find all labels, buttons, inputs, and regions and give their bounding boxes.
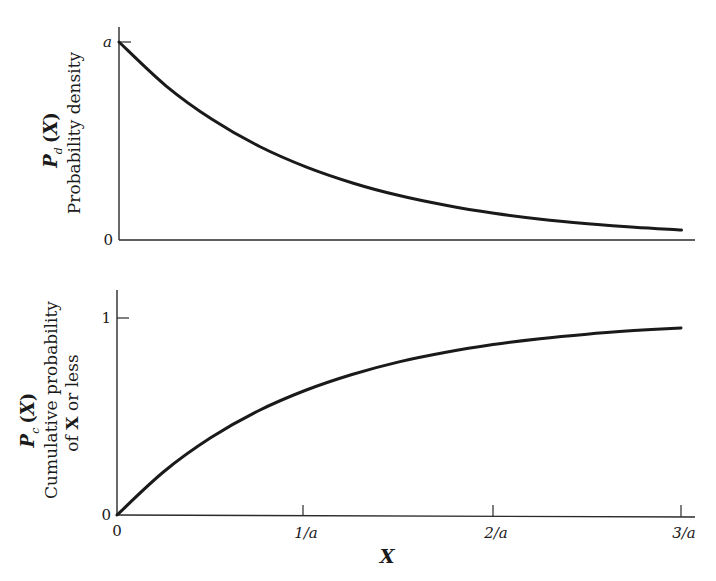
density-y-label: Pd(X) Probability density bbox=[40, 51, 84, 214]
cumulative-paren-open: ( bbox=[17, 415, 38, 424]
cumulative-y-label-line2: Cumulative probability bbox=[41, 301, 61, 499]
cumulative-label-x: X bbox=[62, 416, 82, 430]
density-paren-open: ( bbox=[40, 135, 61, 144]
density-y-label-line1: Pd(X) bbox=[40, 112, 65, 169]
cumulative-paren-close: ) bbox=[17, 393, 38, 402]
cumulative-symbol: P bbox=[17, 433, 38, 448]
cumulative-curve bbox=[117, 328, 681, 515]
density-y-tick-label-a: a bbox=[103, 33, 112, 51]
cumulative-label-or-less: or less bbox=[62, 354, 82, 416]
cumulative-y-label: Pc(X) Cumulative probability of X or les… bbox=[17, 301, 82, 499]
density-panel: a 0 Pd(X) Probability density bbox=[40, 27, 695, 249]
x-tick-label-0: 0 bbox=[112, 522, 122, 540]
cumulative-y-label-line1: Pc(X) bbox=[17, 393, 42, 449]
cumulative-label-of: of bbox=[62, 430, 82, 452]
density-arg: X bbox=[40, 120, 61, 136]
density-symbol: P bbox=[40, 154, 61, 169]
figure: a 0 Pd(X) Probability density 1 0 0 bbox=[0, 0, 716, 581]
chart-svg: a 0 Pd(X) Probability density 1 0 0 bbox=[0, 0, 716, 581]
x-tick-label-2-over-a: 2/a bbox=[483, 524, 508, 542]
density-y-tick-label-0: 0 bbox=[103, 231, 113, 249]
cumulative-y-label-line3: of X or less bbox=[62, 354, 82, 451]
cumulative-y-tick-label-1: 1 bbox=[101, 309, 111, 327]
cumulative-x-axis bbox=[117, 515, 695, 517]
density-y-label-line2: Probability density bbox=[64, 51, 84, 214]
x-axis-label: X bbox=[379, 545, 396, 567]
density-curve bbox=[119, 42, 682, 230]
cumulative-panel: 1 0 0 1/a 2/a 3/a X Pc(X) Cumulative pro… bbox=[17, 290, 696, 567]
x-tick-label-3-over-a: 3/a bbox=[672, 524, 696, 542]
cumulative-arg: X bbox=[17, 400, 38, 416]
cumulative-y-tick-label-0: 0 bbox=[101, 506, 111, 524]
density-paren-close: ) bbox=[40, 112, 61, 121]
x-tick-label-1-over-a: 1/a bbox=[294, 524, 318, 542]
